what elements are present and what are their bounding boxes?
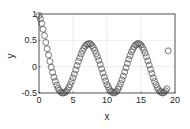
y-tick-label: -0.5: [21, 88, 37, 98]
x-tick-label: 10: [102, 95, 112, 105]
x-tick-label: 5: [70, 95, 75, 105]
x-tick-label: 0: [36, 95, 41, 105]
x-tick-label: 20: [170, 95, 180, 105]
x-tick-label: 15: [136, 95, 146, 105]
chart: 05101520 -0.500.51 x y: [0, 0, 190, 129]
x-axis-label: x: [105, 111, 110, 122]
y-axis-ticks: -0.500.51: [21, 9, 40, 98]
y-tick-label: 0.5: [24, 35, 37, 45]
y-tick-label: 1: [32, 9, 37, 19]
y-axis-label: y: [5, 54, 16, 59]
y-tick-label: 0: [32, 62, 37, 72]
